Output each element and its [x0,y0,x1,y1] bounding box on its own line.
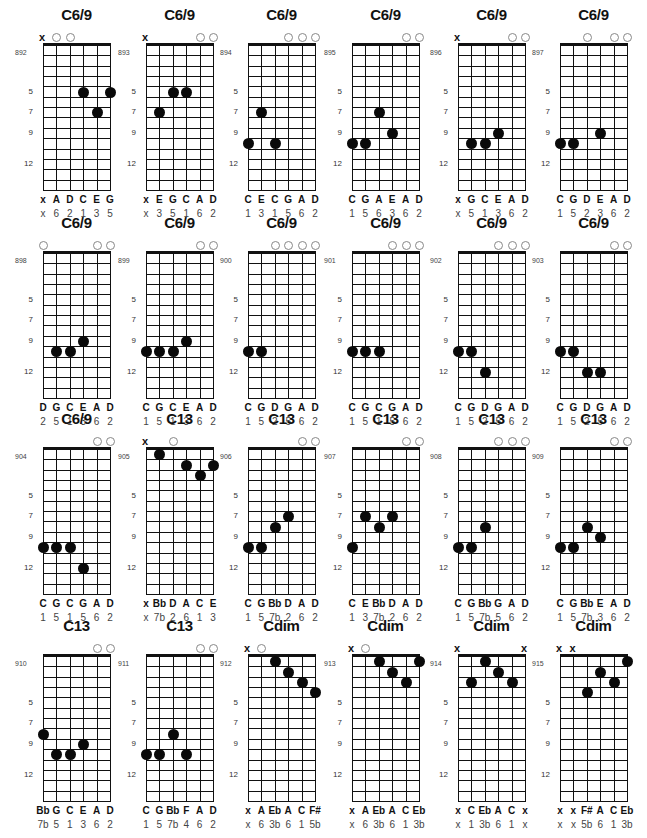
fret-line [43,169,111,170]
fret-line [248,97,316,98]
fret-line [458,377,526,378]
open-string-icon [521,437,530,446]
fret-line [560,159,628,160]
finger-dot-icon [38,729,49,740]
fret-line [458,315,526,316]
muted-string-icon: x [521,643,527,654]
fret-line [458,336,526,337]
fret-line [352,584,420,585]
muted-string-icon: x [556,643,562,654]
fret-marker-label: 7 [224,511,238,520]
fret-line [352,159,420,160]
fret-marker-label: 12 [328,563,342,572]
fret-line [458,573,526,574]
fret-marker-label: 7 [224,315,238,324]
fret-line [248,728,316,729]
fret-line [43,180,111,181]
note-name: D [385,598,399,609]
chord-diagram: C6/990457912C1G5C1G5A6D2 [13,404,118,610]
fret-line [352,563,420,564]
fret-line [352,718,420,719]
fret-line [43,377,111,378]
diagram-number: 911 [118,660,129,667]
note-name: Bb [478,598,492,609]
fret-line [560,697,628,698]
fret-line [352,377,420,378]
note-name: E [90,194,104,205]
note-name: A [179,598,193,609]
open-string-icon [402,437,411,446]
note-name: G [254,598,268,609]
fret-line [248,169,316,170]
chord-diagram: C6/989357912xxxE3G5C1A6D2 [116,0,221,206]
fret-line [43,584,111,585]
fret-line [248,190,316,191]
chord-name: C13 [228,410,335,427]
fret-line [43,294,111,295]
fret-line [352,169,420,170]
note-name: A [505,598,519,609]
note-name: G [76,598,90,609]
fret-line [146,377,214,378]
fret-line [248,367,316,368]
fret-marker-label: 9 [122,336,136,345]
fret-line [458,149,526,150]
open-string-icon [610,437,619,446]
fret-line [560,749,628,750]
note-name: A [90,805,104,816]
fret-line [146,305,214,306]
open-string-icon [623,241,632,250]
fret-marker-label: 9 [328,336,342,345]
note-name: G [49,598,63,609]
fret-marker-label: 5 [328,295,342,304]
diagram-number: 901 [324,257,336,264]
fret-line [352,388,420,389]
note-name: Bb [580,598,594,609]
open-string-icon [494,437,503,446]
diagram-number: 907 [324,453,336,460]
fret-line [560,284,628,285]
fret-line [146,149,214,150]
fret-marker-label: 12 [434,159,448,168]
chord-name: C6/9 [126,214,233,231]
fret-marker-label: 5 [224,698,238,707]
note-name: C [63,598,77,609]
fret-marker-label: 12 [224,770,238,779]
fret-marker-label: 7 [224,718,238,727]
fret-line [146,190,214,191]
chord-diagram: C6/989557912C1G5A6E3A6D2 [322,0,427,206]
open-string-icon [311,241,320,250]
open-string-icon [610,33,619,42]
fret-line [146,263,214,264]
nut [248,654,316,657]
fret-marker-label: 12 [224,367,238,376]
fret-line [458,708,526,709]
fret-line [560,117,628,118]
fret-line [458,780,526,781]
fret-line [146,97,214,98]
fret-marker-label: 7 [122,718,136,727]
fret-line [352,459,420,460]
fret-line [352,190,420,191]
open-string-icon [508,241,517,250]
fret-marker-label: 5 [19,87,33,96]
fret-line [560,169,628,170]
fret-line [248,388,316,389]
fret-line [43,336,111,337]
open-string-icon [209,644,218,653]
note-name: G [49,805,63,816]
note-name: A [90,598,104,609]
finger-dot-icon [168,87,179,98]
note-name: x [241,805,255,816]
fret-line [43,357,111,358]
fret-line [352,117,420,118]
note-name: E [593,598,607,609]
note-name: A [505,194,519,205]
fret-line [146,728,214,729]
fret-line [560,801,628,802]
note-name: D [103,805,117,816]
fret-marker-label: 9 [122,128,136,137]
fret-line [352,263,420,264]
fret-line [248,357,316,358]
fret-line [146,66,214,67]
